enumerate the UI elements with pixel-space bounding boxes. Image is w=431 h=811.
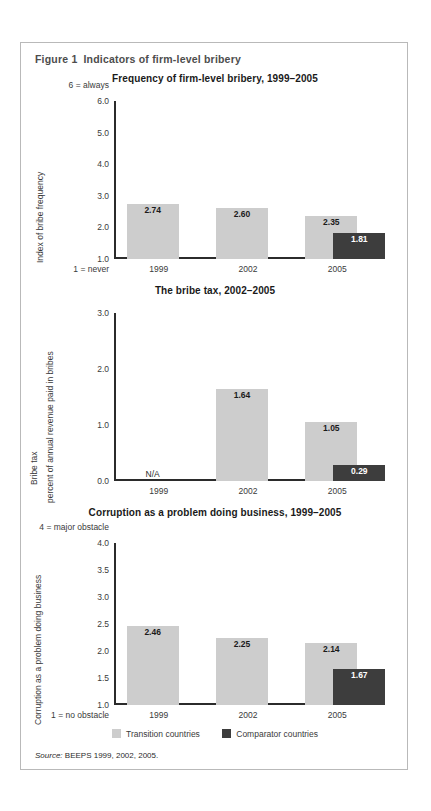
y-axis-label: Index of bribe frequency bbox=[35, 113, 45, 263]
y-axis-tick: 4.0 bbox=[97, 538, 109, 548]
legend-swatch-icon bbox=[222, 729, 231, 738]
x-axis-tick: 2005 bbox=[328, 486, 347, 496]
bar-value-label: 2.74 bbox=[127, 206, 179, 215]
bar-value-label: 2.35 bbox=[305, 218, 357, 227]
figure-number: Figure 1 bbox=[35, 53, 77, 65]
y-axis-tick: 6.0 bbox=[97, 96, 109, 106]
bar-value-label: 2.25 bbox=[216, 640, 268, 649]
bar-2002-transition: 2.60 bbox=[216, 208, 268, 259]
figure-container: Figure 1Indicators of firm-level bribery… bbox=[20, 42, 408, 770]
legend-item-comparator: Comparator countries bbox=[222, 729, 318, 739]
bar-1999-transition: 2.46 bbox=[127, 626, 179, 705]
chart-bribe-frequency: Frequency of firm-level bribery, 1999–20… bbox=[21, 73, 409, 285]
legend-swatch-icon bbox=[112, 729, 121, 738]
axis-bottom-caption: 1 = no obstacle bbox=[51, 710, 109, 720]
bar-value-label: 1.05 bbox=[305, 424, 357, 433]
x-axis-tick: 1999 bbox=[149, 264, 168, 274]
y-axis-tick: 3.0 bbox=[97, 592, 109, 602]
chart-bribe-tax: The bribe tax, 2002–2005 Bribe tax perce… bbox=[21, 285, 409, 507]
plot-area: 3.02.01.00.01999200220051.641.050.29N/A bbox=[114, 313, 382, 481]
y-axis-tick: 4.0 bbox=[97, 159, 109, 169]
bar-value-label: 1.67 bbox=[333, 671, 385, 680]
chart-legend: Transition countries Comparator countrie… bbox=[21, 729, 409, 739]
legend-item-transition: Transition countries bbox=[112, 729, 200, 739]
y-axis-line bbox=[114, 101, 116, 259]
x-axis-tick: 1999 bbox=[149, 486, 168, 496]
bar-2002-transition: 1.64 bbox=[216, 389, 268, 481]
x-axis-tick: 2002 bbox=[239, 710, 258, 720]
y-axis-tick: 2.0 bbox=[97, 364, 109, 374]
axis-bottom-caption: 1 = never bbox=[73, 264, 109, 274]
legend-label: Transition countries bbox=[126, 729, 200, 739]
y-axis-label: Bribe tax bbox=[29, 335, 39, 485]
y-axis-tick: 3.5 bbox=[97, 565, 109, 575]
y-axis-tick: 1.5 bbox=[97, 673, 109, 683]
source-text: BEEPS 1999, 2002, 2005. bbox=[65, 751, 158, 760]
y-axis-line bbox=[114, 313, 116, 481]
figure-title: Indicators of firm-level bribery bbox=[83, 53, 241, 65]
source-note: Source: BEEPS 1999, 2002, 2005. bbox=[35, 751, 158, 760]
y-axis-line bbox=[114, 543, 116, 705]
y-axis-tick: 1.0 bbox=[97, 700, 109, 710]
bar-value-label: 2.46 bbox=[127, 628, 179, 637]
y-axis-tick: 2.0 bbox=[97, 646, 109, 656]
source-label: Source: bbox=[35, 751, 63, 760]
y-axis-label: Corruption as a problem doing business bbox=[33, 525, 43, 725]
x-axis-tick: 2005 bbox=[328, 264, 347, 274]
x-axis-tick: 1999 bbox=[149, 710, 168, 720]
y-axis-tick: 5.0 bbox=[97, 128, 109, 138]
bar-2005-comparator: 1.67 bbox=[333, 669, 385, 705]
bar-value-label: 2.60 bbox=[216, 210, 268, 219]
chart-corruption-problem: Corruption as a problem doing business, … bbox=[21, 507, 409, 743]
y-axis-tick: 0.0 bbox=[97, 476, 109, 486]
y-axis-sublabel: percent of annual revenue paid in bribes bbox=[45, 303, 55, 503]
bar-value-label: 2.14 bbox=[305, 645, 357, 654]
legend-label: Comparator countries bbox=[236, 729, 318, 739]
y-axis-tick: 3.0 bbox=[97, 308, 109, 318]
axis-top-caption: 4 = major obstacle bbox=[39, 522, 109, 532]
plot-area: 4 = major obstacle 1 = no obstacle 4.03.… bbox=[114, 543, 382, 705]
na-label: N/A bbox=[146, 469, 160, 479]
x-axis-tick: 2005 bbox=[328, 710, 347, 720]
y-axis-tick: 3.0 bbox=[97, 191, 109, 201]
figure-page: Figure 1Indicators of firm-level bribery… bbox=[0, 0, 431, 811]
axis-top-caption: 6 = always bbox=[69, 80, 109, 90]
y-axis-tick: 2.5 bbox=[97, 619, 109, 629]
bar-2005-comparator: 1.81 bbox=[333, 233, 385, 259]
bar-2005-comparator: 0.29 bbox=[333, 465, 385, 481]
chart-title: The bribe tax, 2002–2005 bbox=[21, 285, 409, 296]
y-axis-tick: 1.0 bbox=[97, 420, 109, 430]
bar-1999-transition: 2.74 bbox=[127, 204, 179, 259]
y-axis-tick: 2.0 bbox=[97, 222, 109, 232]
chart-title: Corruption as a problem doing business, … bbox=[21, 507, 409, 518]
y-axis-tick: 1.0 bbox=[97, 254, 109, 264]
plot-area: 6 = always 1 = never 6.05.04.03.02.01.01… bbox=[114, 101, 382, 259]
bar-value-label: 1.64 bbox=[216, 391, 268, 400]
x-axis-tick: 2002 bbox=[239, 486, 258, 496]
bar-value-label: 0.29 bbox=[333, 467, 385, 476]
x-axis-tick: 2002 bbox=[239, 264, 258, 274]
bar-2002-transition: 2.25 bbox=[216, 638, 268, 706]
bar-value-label: 1.81 bbox=[333, 235, 385, 244]
figure-caption: Figure 1Indicators of firm-level bribery bbox=[35, 53, 241, 65]
